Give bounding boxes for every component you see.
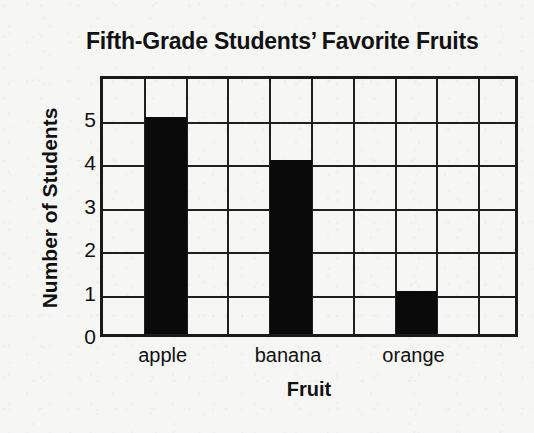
x-tick-label: apple <box>138 344 187 367</box>
bar-chart-figure: Fifth-Grade Students’ Favorite Fruits Nu… <box>0 0 534 433</box>
x-tick-label: orange <box>382 344 444 367</box>
y-tick-label: 3 <box>62 195 96 219</box>
chart-title: Fifth-Grade Students’ Favorite Fruits <box>86 28 534 55</box>
y-axis-tick-labels: 012345 <box>56 76 96 337</box>
y-tick-label: 0 <box>62 325 96 349</box>
x-tick-label: banana <box>255 344 322 367</box>
y-tick-label: 1 <box>62 282 96 306</box>
y-tick-label: 5 <box>62 108 96 132</box>
x-axis-title: Fruit <box>100 378 518 401</box>
y-tick-label: 2 <box>62 238 96 262</box>
bar-orange <box>396 291 438 335</box>
plot-area <box>100 76 518 337</box>
bars-layer <box>103 79 515 334</box>
bar-apple <box>145 117 187 335</box>
y-tick-label: 4 <box>62 151 96 175</box>
x-axis-tick-labels: applebananaorange <box>100 344 518 372</box>
bar-banana <box>270 160 312 334</box>
